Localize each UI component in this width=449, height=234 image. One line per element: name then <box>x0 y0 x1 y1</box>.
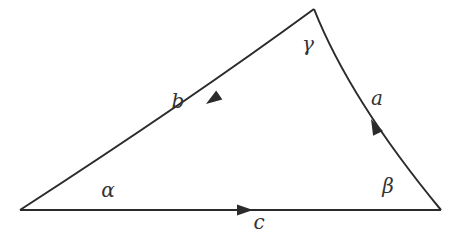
angle-gamma-label: γ <box>302 34 314 54</box>
side-b-edge <box>20 9 314 210</box>
arrow-c-icon <box>237 205 253 216</box>
side-c-label: c <box>253 212 264 232</box>
arrow-a-icon <box>366 117 383 136</box>
angle-alpha-label: α <box>101 180 115 200</box>
triangle-diagram: a b c α β γ <box>0 0 449 234</box>
side-b-label: b <box>172 91 185 111</box>
side-a-label: a <box>371 88 383 108</box>
angle-beta-label: β <box>382 176 394 196</box>
arrow-b-icon <box>203 90 222 108</box>
